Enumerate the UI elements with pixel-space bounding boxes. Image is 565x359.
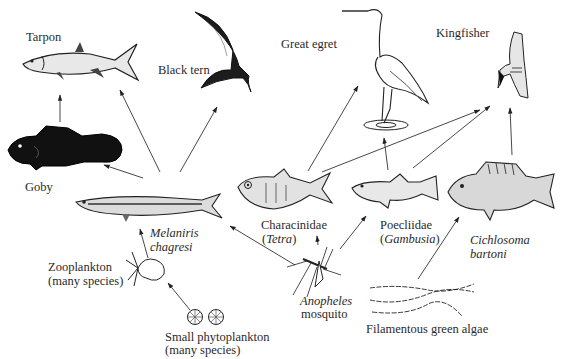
genus-tetra: Tetra: [266, 232, 292, 246]
tarpon-illustration: [20, 40, 140, 90]
arrow-poeciliidae-egret: [384, 138, 388, 170]
label-cichlosoma-line2: bartoni: [470, 247, 507, 261]
arrow-melaniris-tarpon: [120, 90, 160, 172]
label-poeciliidae-line2: (Gambusia): [380, 232, 440, 246]
label-melaniris-line2: chagresi: [150, 240, 193, 254]
label-zooplankton-line1: Zooplankton: [48, 260, 112, 274]
label-goby: Goby: [25, 180, 53, 194]
food-web-diagram: Tarpon Black tern Great egret Kingfisher…: [0, 0, 565, 359]
label-poeciliidae-line1: Poecliidae: [380, 218, 432, 232]
label-phytoplankton-line1: Small phytoplankton: [165, 330, 270, 344]
label-black-tern: Black tern: [158, 63, 210, 77]
label-characinidae-line2: (Tetra): [262, 232, 296, 246]
label-anopheles-line1: Anopheles: [300, 294, 352, 308]
arrow-melaniris-blacktern: [180, 107, 217, 172]
paren-close: ): [436, 232, 440, 246]
kingfisher-illustration: [488, 30, 533, 100]
label-melaniris-line1: Melaniris: [150, 226, 199, 240]
label-anopheles-line2: mosquito: [301, 307, 348, 321]
label-characinidae-line1: Characinidae: [261, 218, 327, 232]
poeciliidae-illustration: [350, 172, 440, 214]
label-filamentous-algae: Filamentous green algae: [366, 322, 488, 336]
arrow-mosquito-characinidae: [317, 236, 318, 245]
great-egret-illustration: [340, 5, 430, 135]
black-tern-illustration: [193, 10, 253, 100]
label-tarpon: Tarpon: [26, 30, 61, 44]
arrow-cichlosoma-kingfisher: [510, 108, 512, 155]
melaniris-illustration: [74, 192, 224, 227]
goby-illustration: [6, 122, 124, 172]
zooplankton-illustration: [124, 250, 172, 288]
filamentous-algae-illustration: [368, 280, 478, 320]
label-cichlosoma-line1: Cichlosoma: [470, 233, 530, 247]
anopheles-mosquito-illustration: [283, 245, 345, 297]
phytoplankton-illustration: [186, 308, 236, 326]
label-kingfisher: Kingfisher: [436, 26, 489, 40]
genus-gambusia: Gambusia: [384, 232, 435, 246]
label-phytoplankton-line2: (many species): [165, 343, 240, 357]
label-zooplankton-line2: (many species): [48, 274, 123, 288]
characinidae-illustration: [236, 167, 334, 215]
cichlosoma-illustration: [446, 160, 556, 222]
paren-close: ): [292, 232, 296, 246]
label-great-egret: Great egret: [281, 37, 337, 51]
